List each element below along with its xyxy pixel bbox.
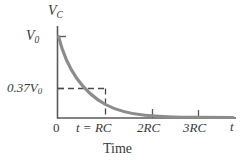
y-tick-label-v0: V0 (26, 29, 39, 43)
y-tick-label-037v0: 0.37V0 (7, 81, 42, 94)
x-tick-label-rc: t = RC (76, 121, 112, 134)
tau-value-subscript: 0 (38, 86, 42, 96)
x-axis-symbol-label: t (230, 120, 234, 133)
x-tick-label-origin: 0 (53, 121, 60, 134)
rc-discharge-chart: VC V0 0.37V0 0 t = RC 2RC 3RC t Time (0, 0, 251, 165)
capacitor-voltage-decay-curve (59, 37, 234, 118)
y-axis-label-symbol: V (48, 3, 57, 18)
y-axis-label-subscript: C (57, 10, 63, 20)
x-tick-label-2rc: 2RC (137, 121, 160, 134)
v0-subscript: 0 (35, 35, 40, 45)
x-tick-label-3rc: 3RC (183, 121, 206, 134)
x-axis-caption: Time (103, 142, 132, 156)
y-axis-label: VC (48, 4, 63, 18)
v0-symbol: V (26, 28, 35, 43)
tau-value-prefix: 0.37V (7, 80, 38, 95)
